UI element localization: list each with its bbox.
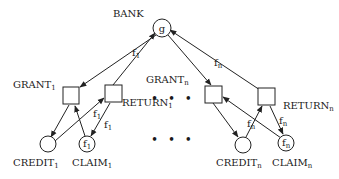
grantn-sub: n xyxy=(184,79,189,87)
svg-text:CREDIT1: CREDIT1 xyxy=(13,157,59,170)
claimn-label: CLAIM xyxy=(272,157,308,168)
claimn-sub: n xyxy=(308,162,313,170)
svg-text:GRANTn: GRANTn xyxy=(146,74,189,87)
arc-grant1-to-credit1 xyxy=(51,105,69,137)
arc-label-bank-returnn: fn xyxy=(214,57,223,70)
svg-text:GRANT1: GRANT1 xyxy=(13,79,56,92)
svg-text:CREDITn: CREDITn xyxy=(216,157,262,170)
claim1-sub: 1 xyxy=(108,162,112,170)
arc-claim1-to-grant1 xyxy=(75,106,85,136)
transition-returnn: RETURNn xyxy=(258,88,334,113)
ellipsis-upper: • • • xyxy=(151,92,195,106)
transition-grant1: GRANT1 xyxy=(13,79,79,104)
returnn-label: RETURN xyxy=(283,100,329,111)
svg-text:RETURNn: RETURNn xyxy=(283,100,334,113)
petri-net-diagram: g BANK GRANT1 RETURN1 CREDIT1 f1 CLAIM1 … xyxy=(0,0,339,179)
grantn-label: GRANT xyxy=(146,74,184,85)
arc-grantn-to-creditn xyxy=(213,103,238,137)
place-bank: g BANK xyxy=(113,8,171,37)
grant1-label: GRANT xyxy=(13,79,51,90)
place-creditn: CREDITn xyxy=(216,137,262,170)
svg-text:CLAIMn: CLAIMn xyxy=(272,157,313,170)
svg-text:CLAIM1: CLAIM1 xyxy=(72,157,112,170)
claim1-label: CLAIM xyxy=(72,157,108,168)
claimn-token-sub: n xyxy=(286,142,291,150)
place-claimn: fn CLAIMn xyxy=(272,135,313,170)
grant1-sub: 1 xyxy=(51,84,55,92)
bank-token: g xyxy=(159,23,166,34)
credit1-label: CREDIT xyxy=(13,157,54,168)
returnn-sub: n xyxy=(329,105,334,113)
place-claim1: f1 CLAIM1 xyxy=(72,136,112,170)
place-credit1: CREDIT1 xyxy=(13,136,59,170)
arc-label-return1-claim1: f1 xyxy=(104,119,112,132)
claim1-token-sub: 1 xyxy=(87,143,91,151)
credit1-sub: 1 xyxy=(54,162,58,170)
arc-label-claim1-return1: f1 xyxy=(93,108,101,121)
bank-label: BANK xyxy=(113,8,144,19)
arc-label-returnn-claimn: fn xyxy=(279,115,288,128)
creditn-label: CREDIT xyxy=(216,157,257,168)
creditn-sub: n xyxy=(257,162,262,170)
ellipsis-lower: • • • xyxy=(151,133,195,147)
